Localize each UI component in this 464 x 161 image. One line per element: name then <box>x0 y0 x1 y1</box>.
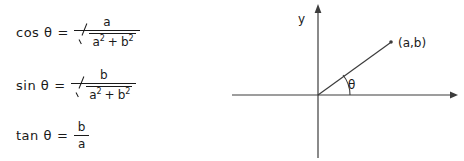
radicand-exponent-1: 2 <box>97 87 102 96</box>
tan-numerator: b <box>74 120 90 135</box>
sin-radicand: a2+b2 <box>86 86 132 103</box>
sine-identity: sin θ = b a2+b2 <box>16 68 136 103</box>
sin-function-label: sin θ <box>16 78 49 93</box>
radicand-term-2: b <box>121 35 129 49</box>
y-axis-label: y <box>298 12 305 26</box>
square-root-icon: a2+b2 <box>78 32 135 50</box>
cos-radicand: a2+b2 <box>89 33 135 50</box>
point-coordinate-label: (a,b) <box>398 36 426 50</box>
cosine-identity: cos θ = a a2+b2 <box>16 15 140 50</box>
tan-function-label: tan θ <box>16 128 52 143</box>
radicand-exponent-2: 2 <box>125 87 130 96</box>
vinculum-line <box>86 86 132 87</box>
trigonometry-figure: cos θ = a a2+b2 <box>0 0 464 161</box>
radical-sign-glyph <box>78 33 89 50</box>
tan-denominator: a <box>74 136 90 151</box>
y-axis-arrowhead <box>315 4 322 13</box>
coordinate-diagram: y (a,b) θ <box>232 0 464 161</box>
equals-sign: = <box>57 25 68 40</box>
cos-function-label: cos θ <box>16 25 52 40</box>
radicand-operator: + <box>102 88 118 102</box>
radicand-operator: + <box>105 35 121 49</box>
cos-fraction: a a2+b2 <box>74 15 139 50</box>
radical-sign-glyph <box>75 86 86 103</box>
sin-denominator: a2+b2 <box>71 84 136 103</box>
x-axis-arrowhead <box>450 92 458 99</box>
radicand-term-1: a <box>89 88 96 102</box>
angle-theta-label: θ <box>348 78 355 92</box>
cos-denominator: a2+b2 <box>74 31 139 50</box>
square-root-icon: a2+b2 <box>75 85 132 103</box>
sin-fraction: b a2+b2 <box>71 68 136 103</box>
vinculum-line <box>89 33 135 34</box>
radicand-term-1: a <box>92 35 99 49</box>
tan-fraction: b a <box>74 120 90 151</box>
radicand-exponent-2: 2 <box>129 34 134 43</box>
point-marker <box>389 40 393 44</box>
equals-sign: = <box>57 128 68 143</box>
tangent-identity: tan θ = b a <box>16 120 89 151</box>
equals-sign: = <box>54 78 65 93</box>
